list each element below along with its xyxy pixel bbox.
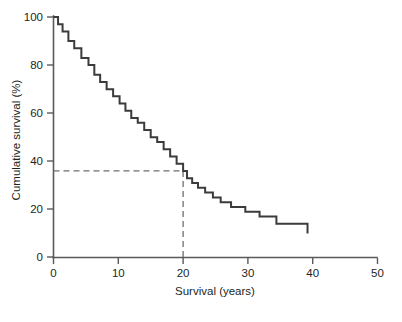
x-tick-label-0: 0 — [50, 267, 56, 279]
y-tick-label-60: 60 — [30, 107, 43, 119]
x-tick-label-20: 20 — [177, 267, 190, 279]
cumulative-survival-curve — [54, 17, 308, 233]
x-tick-label-50: 50 — [371, 267, 384, 279]
y-axis-ticks — [47, 17, 53, 257]
y-tick-label-20: 20 — [30, 203, 43, 215]
x-axis-ticks — [54, 258, 378, 264]
x-tick-label-40: 40 — [306, 267, 319, 279]
y-axis-title: Cumulative survival (%) — [10, 79, 22, 200]
chart-canvas: Cumulative survival (%) 100 80 60 40 20 … — [0, 0, 402, 322]
x-axis-title: Survival (years) — [175, 285, 255, 297]
y-tick-label-40: 40 — [30, 155, 43, 167]
x-tick-label-30: 30 — [242, 267, 255, 279]
x-tick-label-10: 10 — [112, 267, 125, 279]
survival-curve-figure: Cumulative survival (%) 100 80 60 40 20 … — [0, 0, 402, 322]
y-tick-label-100: 100 — [24, 11, 43, 23]
y-tick-label-0: 0 — [37, 251, 43, 263]
y-tick-label-80: 80 — [30, 59, 43, 71]
